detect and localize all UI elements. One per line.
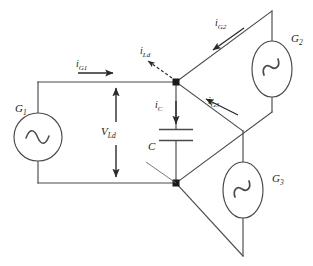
- g1-source-symbol: [14, 113, 62, 161]
- label-ic-sub: C: [158, 105, 163, 113]
- junction-node-top: [173, 79, 180, 86]
- label-voltage-vld: VLd: [101, 126, 116, 140]
- label-ig1-sub: G1: [79, 64, 88, 72]
- label-ig2-sub: G2: [218, 23, 227, 31]
- current-arrow-ig2: [213, 28, 244, 50]
- wire-bottomnode-stub: [146, 162, 176, 183]
- g3-source-symbol: [223, 162, 263, 218]
- g2-source-symbol: [252, 41, 292, 97]
- g2-source-ellipse: [252, 41, 292, 97]
- label-vld-base: V: [101, 125, 108, 137]
- label-g3: G3: [272, 173, 284, 187]
- label-vld-sub: Ld: [108, 131, 116, 140]
- label-g1: G1: [15, 103, 27, 117]
- label-ild-sub: Ld: [143, 51, 150, 59]
- label-capacitor: C: [148, 141, 155, 155]
- label-current-ild: iLd: [140, 46, 150, 59]
- circuit-schematic-svg: [0, 0, 313, 266]
- circuit-diagram: G1 G2 G3 C iG1 iG2 iG3 iLd iC VLd: [0, 0, 313, 266]
- label-g2: G2: [291, 33, 303, 47]
- label-g2-sub: 2: [299, 38, 303, 47]
- label-current-ic: iC: [155, 100, 162, 113]
- label-current-ig2: iG2: [215, 18, 226, 31]
- label-g1-sub: 1: [23, 108, 27, 117]
- label-g2-base: G: [291, 32, 299, 44]
- label-capacitor-base: C: [148, 140, 155, 152]
- label-g3-base: G: [272, 172, 280, 184]
- label-current-ig1: iG1: [76, 59, 87, 72]
- label-ig3-sub: G3: [211, 101, 220, 109]
- capacitor-symbol: [159, 130, 193, 141]
- g2-network-wires: [176, 11, 272, 183]
- label-g1-base: G: [15, 102, 23, 114]
- current-arrow-ild: [148, 61, 172, 78]
- label-g3-sub: 3: [280, 178, 284, 187]
- label-current-ig3: iG3: [208, 96, 219, 109]
